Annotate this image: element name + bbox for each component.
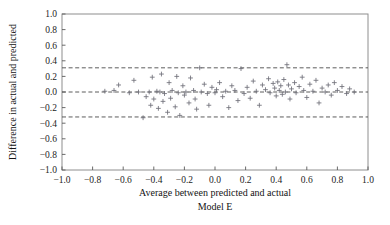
- data-point-marker: [248, 96, 253, 101]
- data-point-marker: [136, 90, 141, 95]
- data-points-group: [102, 62, 356, 120]
- y-tick-label: −0.8: [40, 150, 57, 160]
- data-point-marker: [292, 80, 297, 85]
- data-point-marker: [289, 86, 294, 91]
- x-tick-label: 0.6: [301, 175, 313, 185]
- data-point-marker: [147, 90, 152, 95]
- data-point-marker: [268, 90, 273, 95]
- data-point-marker: [272, 86, 277, 91]
- data-point-marker: [206, 103, 211, 108]
- data-point-marker: [156, 106, 161, 111]
- data-point-marker: [127, 90, 132, 95]
- data-point-marker: [347, 86, 352, 91]
- data-point-marker: [278, 83, 283, 88]
- data-point-marker: [307, 82, 312, 87]
- data-point-marker: [168, 96, 173, 101]
- data-point-marker: [165, 110, 170, 115]
- x-tick-label: −0.2: [176, 175, 193, 185]
- y-tick-label: 1.0: [45, 9, 57, 19]
- x-axis-ticks-group: −1.0−0.8−0.6−0.4−0.20.00.20.40.60.81.0: [53, 167, 374, 186]
- y-tick-label: −0.6: [40, 134, 57, 144]
- data-point-marker: [187, 101, 192, 106]
- y-axis-label: Difference in actual and predicted: [7, 24, 18, 160]
- data-point-marker: [257, 103, 262, 108]
- data-point-marker: [226, 105, 231, 110]
- x-tick-label: −0.8: [84, 175, 101, 185]
- data-point-marker: [280, 92, 285, 97]
- x-tick-label: 0.2: [240, 175, 252, 185]
- y-tick-label: 0.2: [45, 72, 57, 82]
- data-point-marker: [132, 78, 137, 83]
- data-point-marker: [229, 83, 234, 88]
- y-tick-label: −1.0: [40, 165, 57, 175]
- y-tick-label: 0.6: [45, 41, 57, 51]
- data-point-marker: [285, 62, 290, 67]
- data-point-marker: [194, 107, 199, 112]
- y-tick-label: −0.2: [40, 103, 57, 113]
- x-tick-label: 0.4: [270, 175, 282, 185]
- chart-subtitle: Model E: [198, 201, 233, 212]
- data-point-marker: [245, 85, 250, 90]
- data-point-marker: [286, 83, 291, 88]
- data-point-marker: [141, 115, 146, 120]
- data-point-marker: [210, 85, 215, 90]
- x-tick-label: −0.4: [145, 175, 162, 185]
- data-point-marker: [167, 80, 172, 85]
- data-point-marker: [260, 83, 265, 88]
- data-point-marker: [217, 80, 222, 85]
- data-point-marker: [151, 97, 156, 102]
- data-point-marker: [304, 95, 309, 100]
- data-point-marker: [266, 76, 271, 81]
- data-point-marker: [197, 65, 202, 70]
- data-point-marker: [326, 83, 331, 88]
- data-point-marker: [297, 84, 302, 89]
- data-point-marker: [251, 79, 256, 84]
- data-point-marker: [193, 97, 198, 102]
- data-point-marker: [236, 98, 241, 103]
- data-point-marker: [320, 86, 325, 91]
- x-tick-label: 0.8: [331, 175, 343, 185]
- data-point-marker: [271, 81, 276, 86]
- data-point-marker: [161, 99, 166, 104]
- data-point-marker: [311, 89, 316, 94]
- data-point-marker: [173, 104, 178, 109]
- data-point-marker: [188, 76, 193, 81]
- data-point-marker: [263, 87, 268, 92]
- scatter-plot-svg: −1.0−0.8−0.6−0.4−0.20.00.20.40.60.81.0 −…: [0, 0, 390, 225]
- x-tick-label: −1.0: [53, 175, 70, 185]
- data-point-marker: [144, 94, 149, 99]
- data-point-marker: [202, 82, 207, 87]
- data-point-marker: [102, 89, 107, 94]
- data-point-marker: [274, 94, 279, 99]
- x-tick-label: −0.6: [115, 175, 132, 185]
- data-point-marker: [314, 78, 319, 83]
- data-point-marker: [329, 93, 334, 98]
- data-point-marker: [281, 77, 286, 82]
- x-tick-label: 1.0: [362, 175, 374, 185]
- y-tick-label: 0.4: [45, 56, 57, 66]
- data-point-marker: [148, 103, 153, 108]
- data-point-marker: [352, 90, 357, 95]
- data-point-marker: [283, 90, 288, 95]
- data-point-marker: [294, 90, 299, 95]
- data-point-marker: [154, 89, 159, 94]
- data-point-marker: [323, 90, 328, 95]
- data-point-marker: [275, 79, 280, 84]
- data-point-marker: [176, 90, 181, 95]
- data-point-marker: [199, 90, 204, 95]
- y-tick-label: −0.4: [40, 119, 57, 129]
- data-point-marker: [317, 101, 322, 106]
- y-tick-label: 0.0: [45, 87, 57, 97]
- data-point-marker: [159, 72, 164, 77]
- data-point-marker: [158, 90, 163, 95]
- data-point-marker: [174, 74, 179, 79]
- x-tick-label: 0.0: [209, 175, 221, 185]
- bland-altman-chart-figure: −1.0−0.8−0.6−0.4−0.20.00.20.40.60.81.0 −…: [0, 0, 390, 225]
- data-point-marker: [180, 83, 185, 88]
- data-point-marker: [332, 80, 337, 85]
- y-tick-label: 0.8: [45, 25, 57, 35]
- data-point-marker: [254, 89, 259, 94]
- data-point-marker: [340, 84, 345, 89]
- data-point-marker: [223, 89, 228, 94]
- x-axis-label: Average between predicted and actual: [139, 187, 291, 198]
